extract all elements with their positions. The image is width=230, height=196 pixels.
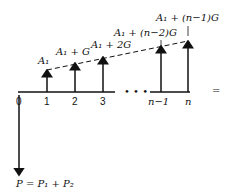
tick-label-n: n [185, 96, 191, 107]
arrow-label-5: A₁ + (n−1)G [155, 12, 219, 23]
present-value-label: P = P₁ + P₂ [15, 178, 74, 189]
tick-label-3: 3 [100, 96, 106, 107]
arrow-label-4: A₁ + (n−2)G [113, 27, 177, 38]
tick-label-2: 2 [72, 96, 78, 107]
arrow-label-1: A₁ [37, 55, 49, 66]
tick-label-n-minus-1: n−1 [148, 96, 169, 107]
arrow-label-3: A₁ + 2G [90, 39, 131, 50]
tick-label-1: 1 [44, 96, 50, 107]
cash-flow-diagram: • • • A₁ A₁ + G A₁ + 2G A₁ + (n−2)G A₁ +… [0, 0, 230, 196]
ellipsis: • • • [124, 86, 148, 97]
arrow-label-2: A₁ + G [55, 46, 90, 57]
tick-label-0: 0 [16, 96, 22, 107]
equals-sign: = [212, 85, 220, 96]
